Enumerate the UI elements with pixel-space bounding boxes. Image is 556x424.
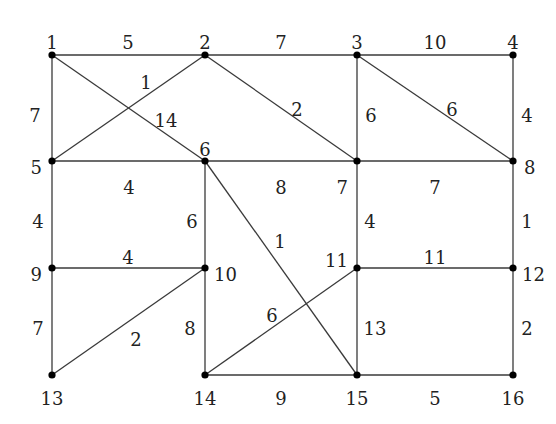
- edge-2-7: [205, 55, 357, 161]
- edge-weight-9-13: 7: [32, 318, 43, 339]
- node-9: [48, 264, 55, 271]
- edge-weight-2-3: 7: [275, 32, 286, 53]
- edge-weight-11-14: 6: [266, 305, 277, 326]
- edge-weight-3-4: 10: [424, 32, 447, 53]
- node-14: [201, 371, 208, 378]
- edge-weight-7-11: 4: [364, 211, 375, 232]
- node-10: [201, 264, 208, 271]
- node-label-11: 11: [325, 250, 348, 271]
- node-label-4: 4: [507, 32, 518, 53]
- node-labels: 12345678910111213141516: [31, 32, 545, 409]
- node-13: [48, 371, 55, 378]
- edge-weight-3-8: 6: [446, 99, 457, 120]
- node-label-1: 1: [46, 32, 57, 53]
- graph-diagram: 57107141266448746141411728613295 1234567…: [0, 0, 556, 424]
- node-label-6: 6: [199, 139, 210, 160]
- edge-weight-9-10: 4: [122, 247, 133, 268]
- edges-layer: [52, 55, 513, 375]
- node-label-10: 10: [214, 264, 237, 285]
- edge-weight-11-15: 13: [364, 318, 387, 339]
- node-5: [48, 157, 55, 164]
- node-label-12: 12: [522, 264, 545, 285]
- edge-weight-14-15: 9: [275, 388, 286, 409]
- node-15: [353, 371, 360, 378]
- node-label-13: 13: [41, 388, 64, 409]
- node-11: [353, 264, 360, 271]
- edge-weight-10-14: 8: [184, 318, 195, 339]
- node-7: [353, 157, 360, 164]
- edge-weight-6-15: 1: [274, 231, 285, 252]
- edge-weight-labels: 57107141266448746141411728613295: [29, 32, 532, 409]
- node-label-15: 15: [346, 388, 369, 409]
- edge-weight-8-12: 1: [521, 211, 532, 232]
- edge-weight-12-16: 2: [521, 318, 532, 339]
- node-12: [509, 264, 516, 271]
- node-label-9: 9: [31, 264, 42, 285]
- edge-weight-5-9: 4: [32, 211, 43, 232]
- edge-3-8: [357, 55, 513, 161]
- edge-weight-10-13: 2: [130, 329, 141, 350]
- edge-weight-4-8: 4: [521, 105, 532, 126]
- node-16: [509, 371, 516, 378]
- edge-weight-1-6: 14: [155, 110, 178, 131]
- edge-weight-11-12: 11: [424, 247, 447, 268]
- node-label-3: 3: [351, 32, 362, 53]
- node-label-8: 8: [524, 157, 535, 178]
- node-label-16: 16: [502, 388, 525, 409]
- edge-weight-3-7: 6: [365, 105, 376, 126]
- node-label-5: 5: [31, 157, 42, 178]
- edge-weight-6-7: 8: [275, 177, 286, 198]
- node-8: [509, 157, 516, 164]
- node-label-14: 14: [194, 388, 217, 409]
- edge-10-13: [52, 268, 205, 375]
- edge-weight-1-2: 5: [122, 32, 133, 53]
- edge-weight-5-6: 4: [123, 177, 134, 198]
- edge-weight-1-5: 7: [29, 105, 40, 126]
- edge-weight-6-10: 6: [186, 211, 197, 232]
- edge-weight-2-5: 1: [140, 72, 151, 93]
- edge-weight-15-16: 5: [429, 388, 440, 409]
- edge-weight-2-7: 2: [291, 99, 302, 120]
- edge-weight-7-8: 7: [429, 177, 440, 198]
- node-label-7: 7: [337, 177, 348, 198]
- node-label-2: 2: [199, 32, 210, 53]
